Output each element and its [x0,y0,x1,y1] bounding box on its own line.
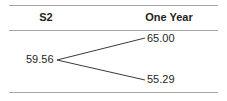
node-label-down: 55.29 [147,73,175,85]
branch-line-down [57,60,145,80]
table-rule-bottom [9,92,218,93]
branch-line-up [57,38,145,60]
node-label-root: 59.56 [26,53,54,65]
table-rule-top [9,5,218,6]
node-label-up: 65.00 [147,32,175,44]
lattice-figure: S2 One Year 59.56 65.00 55.29 [0,0,227,101]
column-header-s2: S2 [9,11,83,23]
column-header-one-year: One Year [129,11,209,23]
